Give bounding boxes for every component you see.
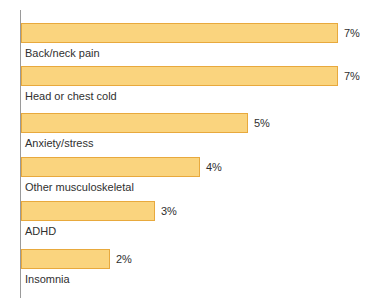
category-label: Back/neck pain (25, 46, 100, 60)
bar[interactable] (21, 201, 155, 221)
category-label: Head or chest cold (25, 89, 117, 103)
category-label: Other musculoskeletal (25, 180, 134, 194)
bar-value-label: 5% (254, 113, 270, 133)
bar-value-label: 3% (161, 201, 177, 221)
bar[interactable] (21, 157, 200, 177)
bar-chart: 7% Back/neck pain 7% Head or chest cold … (0, 0, 377, 308)
bar[interactable] (21, 23, 338, 43)
category-label: Insomnia (25, 272, 70, 286)
bar[interactable] (21, 66, 338, 86)
bar-value-label: 7% (344, 66, 360, 86)
category-label: ADHD (25, 224, 56, 238)
category-label: Anxiety/stress (25, 136, 93, 150)
bar[interactable] (21, 249, 110, 269)
bar[interactable] (21, 113, 248, 133)
bar-value-label: 4% (206, 157, 222, 177)
bar-value-label: 7% (344, 23, 360, 43)
bar-value-label: 2% (116, 249, 132, 269)
